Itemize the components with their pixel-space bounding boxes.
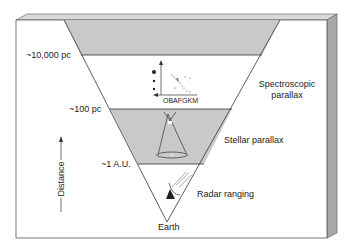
marker-1au-label: ~1 A.U. <box>101 160 131 169</box>
method-spectroscopic-line1: Spectroscopic <box>252 80 322 89</box>
box-side-face <box>327 14 337 238</box>
distance-ladder-diagram: × <box>0 0 347 249</box>
band-far <box>64 20 280 55</box>
svg-text:×: × <box>176 76 179 82</box>
marker-10000pc-label: ~10,000 pc <box>26 51 71 60</box>
earth-label: Earth <box>158 223 180 232</box>
distance-axis-label: Distance <box>56 160 66 198</box>
method-spectroscopic-parallax-label: Spectroscopic parallax <box>252 80 322 100</box>
hr-spectral-class-label: OBAFGKM <box>163 97 198 104</box>
method-stellar-parallax-label: Stellar parallax <box>224 136 284 145</box>
box-top-face <box>16 14 337 20</box>
method-spectroscopic-line2: parallax <box>252 91 322 100</box>
marker-100pc-label: ~100 pc <box>69 105 101 114</box>
method-radar-ranging-label: Radar ranging <box>197 190 254 199</box>
